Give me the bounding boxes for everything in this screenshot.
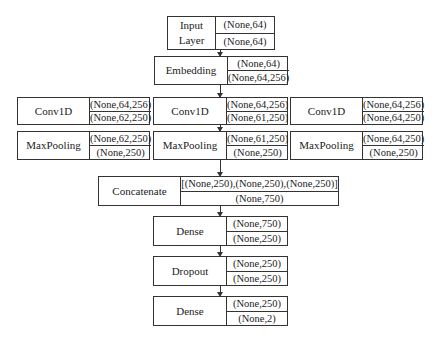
dropout-input-shape: (None,250) [227,257,287,272]
concatenate-label: Concatenate [99,177,181,205]
maxpooling-label-2: MaxPooling [154,132,227,159]
dense-node-1: Dense (None,750) (None,250) [153,216,288,246]
maxpooling-node-3: MaxPooling (None,64,250) (None,250) [290,131,423,160]
arrow-dropout-to-dense [220,286,221,296]
maxpooling-2-input-shape: (None,61,250) [227,132,288,146]
dense-node-2: Dense (None,250) (None,2) [153,296,288,326]
arrow-embedding-to-conv [220,85,221,97]
maxpooling-3-input-shape: (None,64,250) [363,132,424,146]
dense-1-input-shape: (None,750) [227,217,287,232]
conv1d-node-1: Conv1D (None,64,256) (None,62,250) [17,97,150,125]
embedding-output-shape: (None,64,256) [228,71,289,84]
dense-2-input-shape: (None,250) [227,297,287,312]
dense-1-output-shape: (None,250) [227,232,287,246]
conv1d-label-2: Conv1D [154,98,227,124]
maxpooling-label-3: MaxPooling [291,132,363,159]
maxpooling-1-output-shape: (None,250) [90,146,151,159]
input-layer-label-line1: Input [180,18,203,33]
conv1d-3-input-shape: (None,64,256) [363,98,424,112]
conv1d-3-output-shape: (None,64,250) [363,112,424,125]
input-layer-input-shape: (None,64) [216,17,274,34]
conv1d-node-3: Conv1D (None,64,256) (None,64,250) [290,97,423,125]
embedding-input-shape: (None,64) [228,57,289,71]
concatenate-output-shape: (None,750) [181,192,338,206]
dense-label-2: Dense [154,297,227,325]
arrow-dense-to-dropout [220,246,221,256]
concatenate-input-shape: [(None,250),(None,250),(None,250)] [181,177,338,192]
conv1d-2-input-shape: (None,64,256) [227,98,288,112]
maxpooling-2-output-shape: (None,250) [227,146,288,159]
conv1d-node-2: Conv1D (None,64,256) (None,61,250) [153,97,288,125]
maxpooling-1-input-shape: (None,62,250) [90,132,151,146]
conv1d-1-input-shape: (None,64,256) [90,98,151,112]
dense-2-output-shape: (None,2) [227,312,287,326]
conv1d-2-output-shape: (None,61,250) [227,112,288,125]
arrow-concat-to-dense [220,206,221,216]
maxpooling-node-2: MaxPooling (None,61,250) (None,250) [153,131,288,160]
input-layer-label-line2: Layer [179,33,205,48]
maxpooling-node-1: MaxPooling (None,62,250) (None,250) [17,131,150,160]
input-layer-label: Input Layer [168,17,216,49]
input-layer-output-shape: (None,64) [216,34,274,50]
conv1d-1-output-shape: (None,62,250) [90,112,151,125]
dropout-node: Dropout (None,250) (None,250) [153,256,288,286]
maxpooling-label-1: MaxPooling [18,132,90,159]
dropout-output-shape: (None,250) [227,272,287,286]
dropout-label: Dropout [154,257,227,285]
dense-label-1: Dense [154,217,227,245]
concatenate-node: Concatenate [(None,250),(None,250),(None… [98,176,339,206]
arrow-pool-to-concat [220,160,221,176]
input-layer-node: Input Layer (None,64) (None,64) [167,16,275,50]
embedding-label: Embedding [155,57,228,84]
conv1d-label-1: Conv1D [18,98,90,124]
embedding-node: Embedding (None,64) (None,64,256) [154,56,288,85]
maxpooling-3-output-shape: (None,250) [363,146,424,159]
conv1d-label-3: Conv1D [291,98,363,124]
